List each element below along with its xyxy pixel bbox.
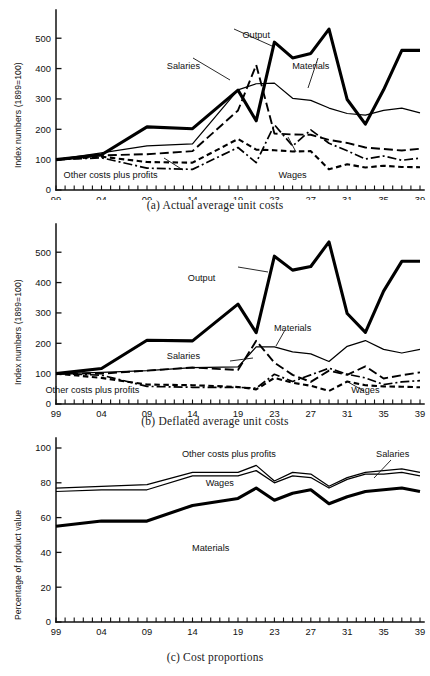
y-tick-label: 400 [35, 277, 51, 288]
caption-panel-c: (c) Cost proportions [0, 651, 430, 663]
x-tick-label: 09 [142, 626, 152, 637]
ylabel-panel-c: Percentage of product value [13, 510, 23, 620]
x-tick-label: 35 [378, 626, 388, 637]
y-tick-label: 300 [35, 307, 51, 318]
y-tick-label: 60 [41, 512, 51, 523]
caption-panel-b: (b) Deflated average unit costs [0, 415, 430, 427]
series-line-other-costs-plus-profits [56, 465, 420, 488]
annotation-other-costs-plus-profits: Other costs plus profits [64, 170, 158, 180]
series-line-salaries [56, 471, 420, 492]
y-tick-label: 80 [41, 477, 51, 488]
chart-panel-c: 02040608010099040914192327313539Other co… [0, 430, 430, 676]
x-tick-label: 23 [269, 626, 279, 637]
y-tick-label: 100 [35, 442, 51, 453]
chart-panel-b: 010020030040050099040914192327313539Outp… [0, 222, 430, 430]
annotation-output: Output [188, 273, 216, 283]
leader-salaries-b [230, 358, 253, 361]
annotation-materials: Materials [192, 543, 230, 553]
y-tick-label: 40 [41, 547, 51, 558]
series-line-materials [56, 488, 420, 526]
annotation-other-costs-plus-profits: Other costs plus profits [182, 449, 276, 459]
leader-other-a [164, 158, 183, 170]
annotation-materials: Materials [274, 323, 312, 333]
series-line-output [56, 242, 420, 374]
y-tick-label: 200 [35, 124, 51, 135]
caption-panel-a: (a) Actual average unit costs [0, 199, 430, 211]
annotation-salaries: Salaries [167, 351, 201, 361]
plot-area-c: 02040608010099040914192327313539Other co… [35, 438, 425, 637]
x-tick-label: 19 [233, 626, 243, 637]
series-line-wages [56, 139, 420, 169]
leader-salaries-c [374, 460, 391, 478]
y-tick-label: 100 [35, 154, 51, 165]
y-tick-label: 400 [35, 63, 51, 74]
annotation-salaries: Salaries [167, 61, 201, 71]
x-tick-label: 99 [51, 626, 61, 637]
plot-area-b: 010020030040050099040914192327313539Outp… [35, 224, 425, 417]
y-tick-label: 300 [35, 93, 51, 104]
x-tick-label: 04 [96, 626, 106, 637]
annotation-salaries: Salaries [376, 449, 410, 459]
annotation-materials: Materials [292, 61, 330, 71]
chart-panel-a: 010020030040050099040914192327313539Outp… [0, 0, 430, 222]
ylabel-panel-a: Index numbers (1899=100) [13, 62, 23, 168]
x-tick-label: 31 [342, 626, 352, 637]
series-line-salaries [56, 65, 420, 160]
series-line-output [56, 29, 420, 160]
y-tick-label: 500 [35, 247, 51, 258]
plot-area-a: 010020030040050099040914192327313539Outp… [35, 10, 425, 200]
y-tick-label: 500 [35, 33, 51, 44]
y-tick-label: 200 [35, 338, 51, 349]
figure-cost-index-charts: 010020030040050099040914192327313539Outp… [0, 0, 430, 676]
annotation-wages: Wages [206, 478, 235, 488]
annotation-wages: Wages [278, 170, 307, 180]
y-tick-label: 20 [41, 582, 51, 593]
ylabel-panel-b: Index numbers (1899=100) [13, 279, 23, 385]
x-tick-label: 14 [187, 626, 197, 637]
leader-output-b [238, 267, 268, 272]
annotation-other-costs-plus-profits: Other costs plus profits [45, 385, 139, 395]
y-tick-label: 100 [35, 368, 51, 379]
x-tick-label: 27 [306, 626, 316, 637]
x-tick-label: 39 [415, 626, 425, 637]
